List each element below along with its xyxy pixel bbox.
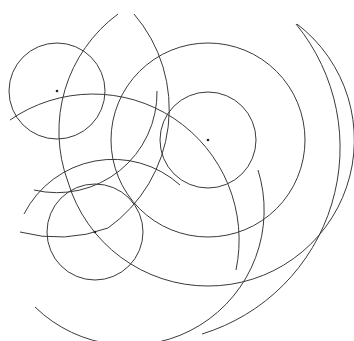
arc-b-outermost [202,24,340,334]
center-point-b [207,139,210,142]
arc-lower-sweep [35,170,264,341]
construction-diagram [0,0,354,341]
arc-a-medium [34,91,157,193]
arc-c-large [10,94,239,270]
center-point-a [56,90,59,93]
arc-a-large [20,14,169,237]
center-point-c [94,231,97,234]
arc-b-large [59,14,354,286]
